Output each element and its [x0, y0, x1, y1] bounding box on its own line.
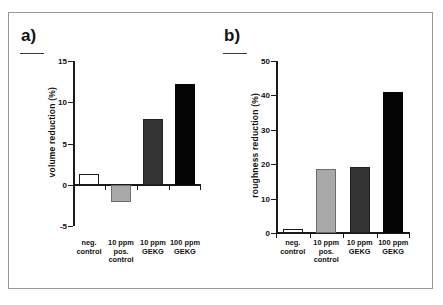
figure-frame: a) volume reduction (%) 151050-5neg. con… [8, 12, 433, 289]
bar-a-3 [175, 84, 195, 185]
y-tick-label-a--5: -5 [60, 222, 67, 231]
y-axis-label-b: roughness reduction (%) [250, 93, 260, 198]
x-tick-b-2 [343, 233, 344, 238]
y-tick-label-a-0: 0 [63, 180, 67, 189]
bar-a-2 [143, 119, 163, 185]
x-category-label-b-2: 10 ppm GEKG [343, 239, 377, 256]
x-tick-b-1 [310, 233, 311, 238]
bar-a-0 [79, 174, 99, 185]
x-tick-a-0 [73, 185, 74, 190]
y-tick-b-40 [271, 95, 276, 96]
y-tick-label-a-5: 5 [63, 139, 67, 148]
y-tick-label-b-10: 10 [261, 194, 270, 203]
panel-a-underline [20, 53, 44, 54]
bar-b-3 [383, 92, 403, 233]
y-tick-label-b-30: 30 [261, 125, 270, 134]
bar-a-1 [111, 185, 131, 202]
y-tick-label-b-50: 50 [261, 57, 270, 66]
x-category-label-b-1: 10 ppm pos. control [310, 239, 344, 265]
panel-a-label: a) [21, 26, 36, 46]
x-category-label-a-3: 100 ppm GEKG [169, 239, 201, 256]
y-tick-b-30 [271, 130, 276, 131]
x-tick-a-3 [169, 185, 170, 190]
x-category-label-b-3: 100 ppm GEKG [377, 239, 411, 256]
x-tick-a-1 [105, 185, 106, 190]
y-tick-a--5 [68, 226, 73, 227]
y-tick-a-5 [68, 144, 73, 145]
bar-b-1 [316, 169, 336, 233]
chart-panel-a: a) volume reduction (%) 151050-5neg. con… [9, 13, 221, 288]
y-tick-b-50 [271, 61, 276, 62]
panel-b-underline [223, 53, 247, 54]
y-tick-label-b-0: 0 [266, 229, 270, 238]
y-tick-b-20 [271, 164, 276, 165]
y-axis-line-b [276, 61, 278, 233]
x-category-label-a-0: neg. control [73, 239, 105, 256]
x-category-label-a-2: 10 ppm GEKG [137, 239, 169, 256]
plot-area-a [73, 61, 201, 226]
bar-b-2 [350, 167, 370, 233]
y-tick-label-a-10: 10 [58, 98, 67, 107]
plot-area-b [276, 61, 410, 233]
y-axis-line-a [73, 61, 75, 226]
y-tick-label-b-40: 40 [261, 91, 270, 100]
x-tick-b-0 [276, 233, 277, 238]
x-category-label-a-1: 10 ppm pos. control [105, 239, 137, 265]
y-tick-a-10 [68, 102, 73, 103]
x-tick-a-end [200, 185, 201, 190]
chart-panel-b: b) roughness reduction (%) 50403020100ne… [214, 13, 434, 288]
bar-b-0 [283, 229, 303, 233]
y-axis-label-a: volume reduction (%) [47, 87, 57, 177]
y-tick-label-a-15: 15 [58, 57, 67, 66]
x-category-label-b-0: neg. control [276, 239, 310, 256]
x-tick-a-2 [137, 185, 138, 190]
panel-b-label: b) [224, 26, 240, 46]
y-tick-a-15 [68, 61, 73, 62]
x-tick-b-end [409, 233, 410, 238]
y-tick-b-10 [271, 199, 276, 200]
y-tick-label-b-20: 20 [261, 160, 270, 169]
